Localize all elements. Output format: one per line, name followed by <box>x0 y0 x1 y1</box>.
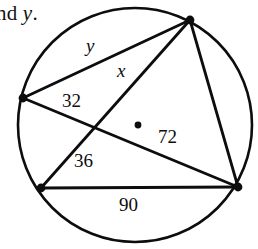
vertex-point-left <box>19 94 28 103</box>
arc-label-y: y <box>86 36 94 55</box>
arc-label-72: 72 <box>158 127 177 146</box>
arc-label-32: 32 <box>62 91 81 110</box>
figure-page: nd y. y x 32 72 36 90 <box>0 0 258 249</box>
arc-label-90: 90 <box>119 195 138 214</box>
chord-left-to-top <box>23 20 190 98</box>
vertex-point-bottom-left <box>37 184 46 193</box>
arc-label-36: 36 <box>74 151 93 170</box>
arc-label-x: x <box>117 61 125 80</box>
chord-bottom-left-to-bottom-right <box>41 187 238 188</box>
chord-top-to-bottom-right <box>190 20 238 187</box>
vertex-point-bottom-right <box>234 183 243 192</box>
vertex-point-top <box>186 16 195 25</box>
circle-center-dot <box>135 122 142 129</box>
